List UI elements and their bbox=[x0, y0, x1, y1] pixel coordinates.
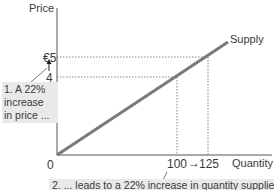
supply-curve bbox=[57, 42, 228, 155]
annotation-price-line-1: 1. A 22% bbox=[4, 83, 56, 96]
annotation-quantity-box: 2. ... leads to a 22% increase in quanti… bbox=[49, 179, 274, 190]
x-axis-label: Quantity bbox=[232, 157, 273, 169]
y-tick-5: €5 bbox=[43, 51, 56, 65]
annotation-price-line-3: in price ... bbox=[4, 109, 56, 122]
origin-label: 0 bbox=[47, 158, 54, 172]
y-axis-label: Price bbox=[29, 2, 54, 14]
annotation-price-line-2: increase bbox=[4, 96, 56, 109]
x-tick-125: 125 bbox=[199, 157, 219, 171]
annotation-price-box: 1. A 22% increase in price ... bbox=[2, 82, 58, 123]
supply-label: Supply bbox=[230, 33, 264, 45]
annotation-1-leader bbox=[30, 68, 47, 83]
x-tick-100: 100 bbox=[167, 157, 187, 171]
